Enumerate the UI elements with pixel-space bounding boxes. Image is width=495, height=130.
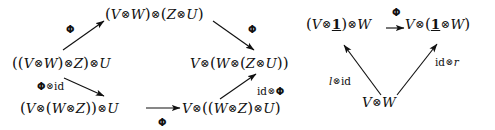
pentagon-node-top: (V⊗W)⊗(Z⊗U) [105, 7, 204, 22]
arrow-bottom-to-top-right [397, 44, 437, 95]
diagram-canvas: (V⊗W)⊗(Z⊗U) ((V⊗W)⊗Z)⊗U V⊗(W⊗(Z⊗U)) (V⊗(… [0, 0, 495, 130]
triangle-node-top-left: (V⊗1)⊗W [306, 17, 371, 32]
arrow-left-to-bottom-left [64, 78, 104, 96]
triangle-node-bottom: V⊗W [362, 96, 396, 110]
pentagon-label-bottom-right-to-right: id⊗Φ [257, 86, 284, 97]
pentagon-node-left: ((V⊗W)⊗Z)⊗U [12, 56, 111, 71]
triangle-label-bottom-to-top-right: id⊗r [435, 57, 459, 68]
arrow-bottom-to-top-left [344, 45, 381, 95]
pentagon-label-top-to-right: Φ [248, 24, 257, 35]
pentagon-node-bottom-right: V⊗((W⊗Z)⊗U) [182, 101, 281, 116]
pentagon-label-left-to-bottom-left: Φ⊗id [37, 81, 64, 92]
pentagon-label-bottom-left-to-bottom-right: Φ [158, 117, 167, 128]
pentagon-label-left-to-top: Φ [66, 24, 75, 35]
triangle-label-top-left-to-top-right: Φ [392, 7, 401, 18]
triangle-label-bottom-to-top-left: l⊗id [329, 76, 351, 87]
pentagon-node-bottom-left: (V⊗(W⊗Z))⊗U [20, 101, 119, 116]
pentagon-node-right: V⊗(W⊗(Z⊗U)) [190, 56, 289, 71]
arrow-bottom-right-to-right [220, 74, 256, 99]
triangle-node-top-right: V⊗(1⊗W) [405, 17, 470, 32]
